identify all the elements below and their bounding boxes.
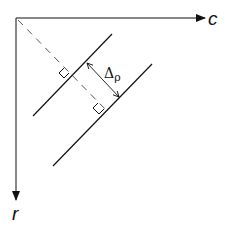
axis-label-c: c [208, 9, 218, 28]
rho-subscript: ρ [114, 71, 120, 84]
right-angle-mark-2 [93, 103, 104, 114]
spacing-label: Δρ [104, 66, 121, 83]
delta-symbol: Δ [104, 65, 114, 81]
axis-label-r: r [12, 204, 18, 223]
right-angle-mark-1 [59, 68, 69, 78]
dashed-normal-line [18, 20, 108, 112]
diagram-canvas [0, 0, 228, 229]
